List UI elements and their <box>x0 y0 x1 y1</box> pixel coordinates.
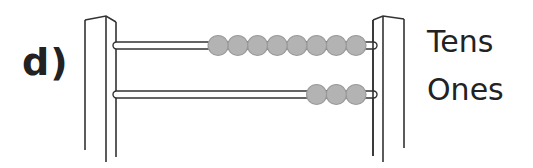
bead <box>248 36 268 56</box>
bead <box>326 85 346 105</box>
ones-beads <box>307 85 366 105</box>
bead <box>307 36 327 56</box>
bead <box>346 36 366 56</box>
bead <box>307 85 327 105</box>
bead <box>208 36 228 56</box>
bead <box>346 85 366 105</box>
bead <box>228 36 248 56</box>
left-post <box>85 16 116 162</box>
bead <box>287 36 307 56</box>
bead <box>267 36 287 56</box>
bead <box>326 36 346 56</box>
tens-label: Tens <box>427 24 493 59</box>
ones-label: Ones <box>427 72 504 107</box>
right-post <box>373 16 404 162</box>
tens-beads <box>208 36 366 56</box>
